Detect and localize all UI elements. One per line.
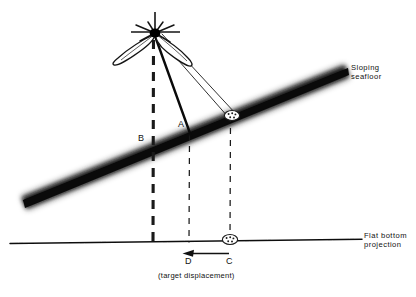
target-on-flat [222,235,237,245]
point-c-label: C [226,256,233,267]
sloping-seafloor-label: Sloping seafloor [351,64,382,82]
diagram-canvas [0,0,416,297]
sonar-slope-diagram: Sloping seafloor Flat bottom projection … [0,0,416,297]
sloping-seafloor-band [23,68,349,208]
dashed-line-d [189,134,190,243]
flat-bottom-projection-label: Flat bottom projection [364,232,407,250]
target-displacement-caption: (target displacement) [158,272,235,281]
point-d-label: D [185,256,192,267]
dashed-line-c [230,116,231,240]
nadir-dashed-line-b [153,40,154,243]
point-b-label: B [138,133,144,144]
flat-bottom-line [10,239,362,243]
point-a-label: A [178,119,184,130]
target-on-slope [224,111,239,121]
